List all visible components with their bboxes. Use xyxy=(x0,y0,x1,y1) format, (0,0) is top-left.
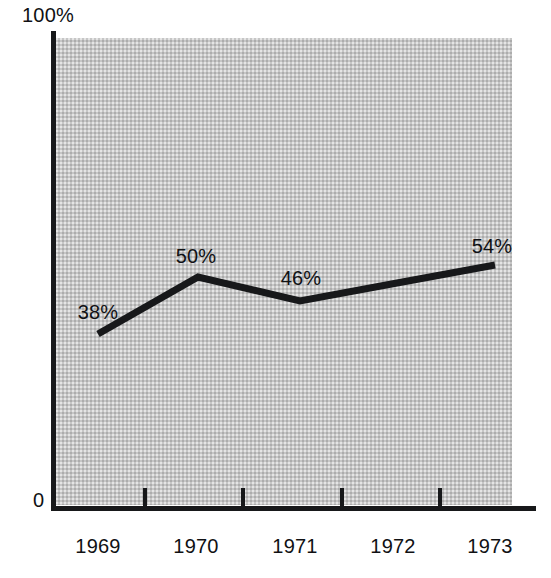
x-axis-label-1971: 1971 xyxy=(255,535,335,557)
line-chart: 100% 0 1969 1970 1971 1972 1973 38% 50% … xyxy=(0,0,551,578)
x-axis-label-1969: 1969 xyxy=(58,535,138,557)
y-axis-line xyxy=(51,31,56,511)
x-axis-label-1972: 1972 xyxy=(353,535,433,557)
x-axis-tick-2 xyxy=(241,488,245,507)
y-axis-min-label: 0 xyxy=(33,489,44,511)
x-axis-tick-3 xyxy=(340,488,344,507)
y-axis-max-label: 100% xyxy=(22,4,74,26)
x-axis-label-1970: 1970 xyxy=(156,535,236,557)
x-axis-label-1973: 1973 xyxy=(450,535,530,557)
data-label-1970: 50% xyxy=(161,245,231,267)
x-axis-tick-4 xyxy=(438,488,442,507)
x-axis-line xyxy=(51,506,536,511)
data-label-1973: 54% xyxy=(457,235,527,257)
data-label-1971: 46% xyxy=(266,267,336,289)
data-label-1969: 38% xyxy=(63,301,133,323)
x-axis-tick-1 xyxy=(143,488,147,507)
